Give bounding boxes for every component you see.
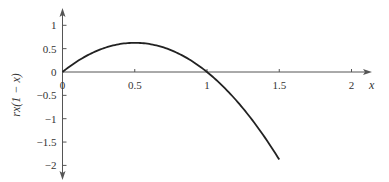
x-tick-label: 0.5 [128,79,142,91]
x-tick-label: 1 [204,79,210,91]
y-tick-label: −0.5 [37,89,57,101]
y-tick-label: −1 [45,113,57,125]
series-line-rx1mx [63,43,280,160]
y-axis-label: rx(1 − x) [9,73,23,116]
y-tick-label: −1.5 [37,136,57,148]
y-tick-label: 0.5 [43,43,57,55]
axes [60,8,373,180]
y-tick-label: −2 [45,159,57,171]
plot-area [63,43,280,160]
y-tick-label: 0 [51,66,57,78]
x-axis-label: x [368,78,375,92]
x-tick-label: 0 [60,79,66,91]
chart: 00.511.5210.50−0.5−1−1.5−2 x rx(1 − x) [0,0,389,182]
ticks: 00.511.5210.50−0.5−1−1.5−2 [37,19,355,171]
x-tick-label: 2 [349,79,355,91]
x-tick-label: 1.5 [272,79,286,91]
y-tick-label: 1 [51,19,57,31]
